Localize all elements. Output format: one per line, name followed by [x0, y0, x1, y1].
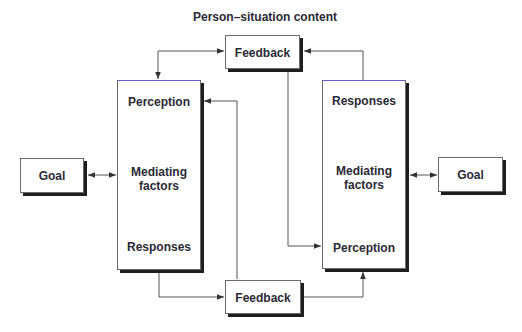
- top-feedback-label: Feedback: [226, 46, 299, 60]
- left-goal-label: Goal: [21, 169, 83, 183]
- right-responses-label: Responses: [323, 94, 405, 108]
- right-mediating-label-line2: factors: [323, 178, 405, 192]
- left-goal-box: Goal: [20, 158, 84, 193]
- bottom-feedback-box: Feedback: [225, 280, 301, 314]
- left-process-box: Perception Mediating factors Responses: [117, 80, 201, 270]
- left-mediating-label-line1: Mediating: [118, 165, 200, 179]
- bottom-feedback-label: Feedback: [226, 291, 300, 305]
- left-mediating-label-line2: factors: [118, 179, 200, 193]
- right-goal-box: Goal: [438, 157, 503, 192]
- right-perception-label: Perception: [323, 241, 405, 255]
- right-process-box: Responses Mediating factors Perception: [322, 80, 406, 269]
- left-responses-label: Responses: [118, 240, 200, 254]
- top-feedback-box: Feedback: [225, 35, 300, 69]
- right-goal-label: Goal: [439, 168, 502, 182]
- left-perception-label: Perception: [118, 95, 200, 109]
- right-mediating-label-line1: Mediating: [323, 164, 405, 178]
